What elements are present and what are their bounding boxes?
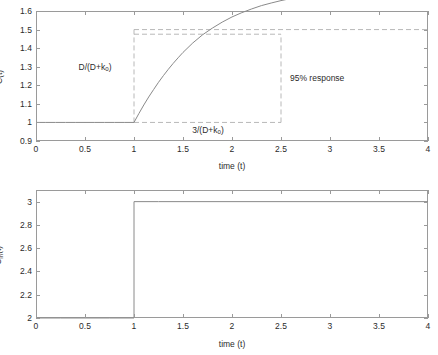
bottom-yaxis-title: Cin(t)	[0, 246, 4, 265]
x-tick-label: 0	[34, 144, 39, 154]
x-tick-label: 2	[230, 144, 235, 154]
x-tick-label: 0.5	[79, 144, 91, 154]
bottom-chart-axes	[36, 190, 428, 318]
y-tickmark	[36, 85, 40, 86]
x-tickmark-top	[428, 11, 429, 15]
x-tickmark-top	[85, 11, 86, 15]
time-constant-annotation: 3/(D+k0)	[192, 125, 224, 136]
x-tick-label: 3	[328, 144, 333, 154]
x-tick-label: 1	[132, 321, 137, 331]
y-tickmark	[36, 67, 40, 68]
bottom-xaxis-title: time (t)	[219, 339, 245, 349]
x-tickmark-top	[379, 11, 380, 15]
x-tickmark	[428, 137, 429, 141]
x-tickmark	[330, 314, 331, 318]
bottom-yaxis-title-base: C	[0, 259, 3, 265]
y-tickmark-right	[424, 271, 428, 272]
y-tickmark-right	[424, 104, 428, 105]
x-tickmark	[134, 137, 135, 141]
y-tickmark-right	[424, 295, 428, 296]
bottom-plot-canvas	[36, 190, 428, 318]
y-tickmark	[36, 122, 40, 123]
x-tickmark-top	[281, 11, 282, 15]
series-line-0	[36, 202, 428, 318]
y-tick-label: 2.2	[4, 290, 32, 300]
x-tickmark-top	[183, 190, 184, 194]
x-tickmark-top	[183, 11, 184, 15]
x-tick-label: 1.5	[177, 144, 189, 154]
y-tickmark	[36, 295, 40, 296]
x-tick-label: 0.5	[79, 321, 91, 331]
y-tick-label: 1.6	[4, 6, 32, 16]
y-tickmark-right	[424, 11, 428, 12]
y-tick-label: 1	[4, 117, 32, 127]
x-tick-label: 4	[426, 144, 431, 154]
y-tickmark	[36, 141, 40, 142]
y-tickmark-right	[424, 248, 428, 249]
x-tickmark	[232, 137, 233, 141]
y-tickmark	[36, 271, 40, 272]
x-tickmark	[134, 314, 135, 318]
y-tickmark-right	[424, 67, 428, 68]
top-plot-canvas	[36, 11, 428, 141]
x-tick-label: 3.5	[373, 321, 385, 331]
x-tick-label: 3.5	[373, 144, 385, 154]
y-tickmark-right	[424, 202, 428, 203]
x-tickmark-top	[36, 190, 37, 194]
y-tickmark-right	[424, 318, 428, 319]
y-tickmark-right	[424, 122, 428, 123]
top-yaxis-title: C(t)	[0, 70, 4, 84]
x-tickmark	[379, 137, 380, 141]
x-tickmark-top	[281, 190, 282, 194]
x-tick-label: 1.5	[177, 321, 189, 331]
y-tick-label: 3	[4, 197, 32, 207]
y-tick-label: 1.3	[4, 62, 32, 72]
y-tick-label: 1.2	[4, 80, 32, 90]
x-tickmark-top	[330, 190, 331, 194]
y-tickmark	[36, 30, 40, 31]
x-tick-label: 0	[34, 321, 39, 331]
y-tickmark	[36, 202, 40, 203]
y-tickmark	[36, 11, 40, 12]
x-tickmark	[183, 137, 184, 141]
x-tickmark-top	[85, 190, 86, 194]
x-tickmark-top	[379, 190, 380, 194]
top-chart-axes	[36, 11, 428, 141]
y-tick-label: 1.1	[4, 99, 32, 109]
y-tickmark	[36, 225, 40, 226]
figure-root: 00.511.522.533.540.911.11.21.31.41.51.6 …	[0, 0, 438, 355]
y-tick-label: 2.6	[4, 243, 32, 253]
x-tickmark-top	[428, 190, 429, 194]
y-tickmark	[36, 48, 40, 49]
y-tick-label: 0.9	[4, 136, 32, 146]
x-tickmark-top	[134, 190, 135, 194]
x-tickmark	[232, 314, 233, 318]
top-xaxis-title: time (t)	[219, 161, 245, 171]
x-tickmark	[330, 137, 331, 141]
y-tickmark	[36, 248, 40, 249]
x-tick-label: 2	[230, 321, 235, 331]
x-tick-label: 3	[328, 321, 333, 331]
y-tickmark-right	[424, 48, 428, 49]
x-tickmark	[85, 137, 86, 141]
x-tickmark	[281, 137, 282, 141]
x-tickmark-top	[232, 11, 233, 15]
bottom-yaxis-title-sub: in	[0, 254, 4, 259]
gain-annotation: D/(D+k0)	[79, 62, 112, 73]
y-tick-label: 1.5	[4, 25, 32, 35]
bottom-yaxis-title-tail: (t)	[0, 246, 3, 254]
x-tick-label: 1	[132, 144, 137, 154]
x-tick-label: 2.5	[275, 321, 287, 331]
response-annotation: 95% response	[290, 73, 344, 83]
x-tickmark	[281, 314, 282, 318]
y-tickmark-right	[424, 141, 428, 142]
x-tickmark	[428, 314, 429, 318]
x-tickmark	[183, 314, 184, 318]
y-tickmark-right	[424, 225, 428, 226]
y-tick-label: 2.4	[4, 266, 32, 276]
x-tickmark-top	[330, 11, 331, 15]
y-tick-label: 2	[4, 313, 32, 323]
y-tickmark-right	[424, 85, 428, 86]
x-tickmark	[379, 314, 380, 318]
y-tick-label: 1.4	[4, 43, 32, 53]
